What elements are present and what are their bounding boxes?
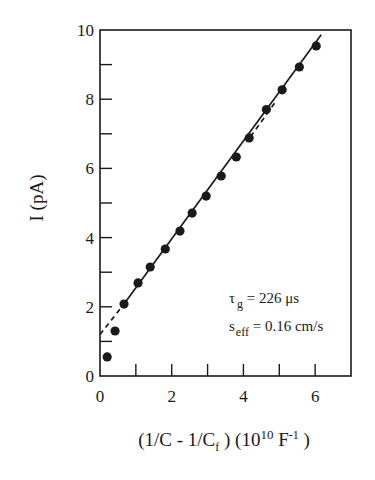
- data-point: [103, 352, 112, 361]
- chart: 0246810 0246 τg = 226 μs seff = 0.16 cm/…: [0, 0, 375, 480]
- y-tick-label: 8: [86, 90, 95, 109]
- y-axis-ticks: 0246810: [77, 21, 112, 386]
- x-tick-label: 6: [311, 387, 320, 406]
- y-axis-label: I (pA): [26, 175, 48, 222]
- y-tick-label: 4: [86, 229, 95, 248]
- x-tick-label: 2: [167, 387, 176, 406]
- data-point: [119, 299, 128, 308]
- solid-fit-line: [124, 35, 321, 304]
- x-axis-ticks: 0246: [96, 364, 320, 406]
- data-point: [232, 152, 241, 161]
- data-point: [146, 262, 155, 271]
- data-point: [278, 85, 287, 94]
- data-point: [175, 226, 184, 235]
- y-tick-label: 2: [86, 298, 95, 317]
- data-point: [295, 62, 304, 71]
- data-point: [245, 133, 254, 142]
- data-point: [133, 278, 142, 287]
- y-tick-label: 10: [77, 21, 94, 40]
- x-tick-label: 4: [239, 387, 248, 406]
- annotation-seff: seff = 0.16 cm/s: [229, 318, 323, 339]
- data-point: [202, 191, 211, 200]
- data-points: [103, 41, 321, 361]
- data-point: [188, 208, 197, 217]
- annotation-tau: τg = 226 μs: [229, 290, 299, 311]
- x-tick-label: 0: [96, 387, 105, 406]
- data-point: [110, 326, 119, 335]
- y-tick-label: 6: [86, 159, 95, 178]
- data-point: [217, 171, 226, 180]
- data-point: [312, 41, 321, 50]
- y-tick-label: 0: [86, 367, 95, 386]
- data-point: [262, 105, 271, 114]
- x-axis-label: (1/C - 1/Cf ) (1010 F-1 ): [138, 427, 310, 454]
- data-point: [161, 244, 170, 253]
